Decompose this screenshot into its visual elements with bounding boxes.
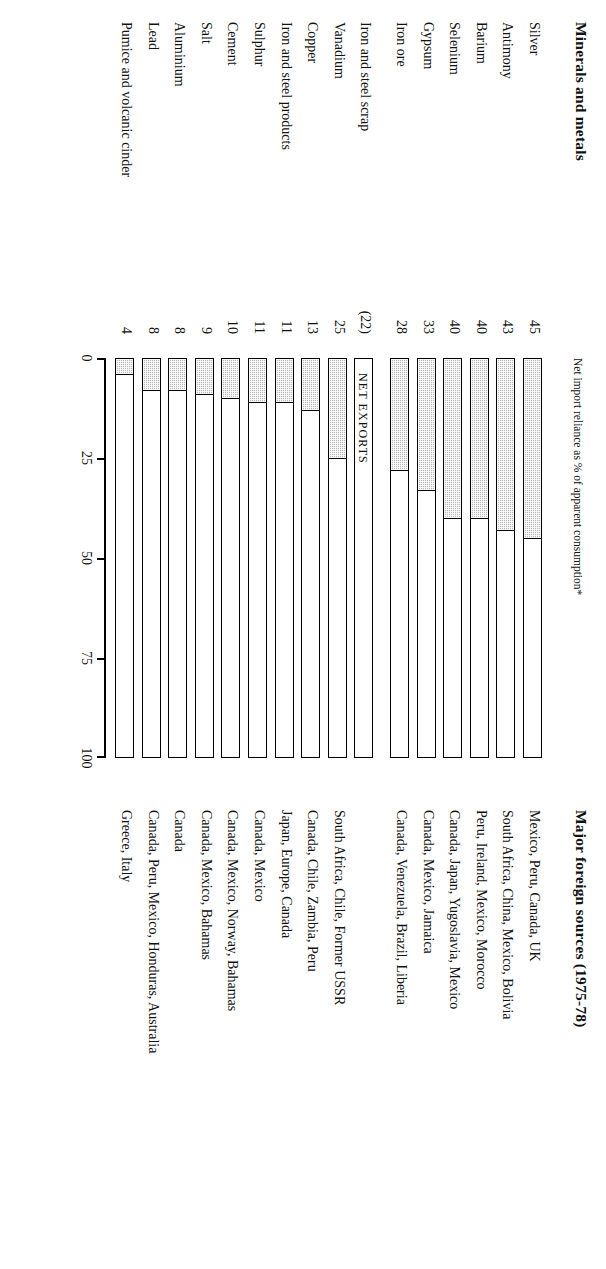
bar-fill xyxy=(249,359,266,403)
foreign-sources-label: Canada, Japan, Yugoslavia, Mexico xyxy=(446,810,462,1009)
foreign-sources-label: Japan, Europe, Canada xyxy=(278,810,294,938)
mineral-name-label: Barium xyxy=(473,22,489,64)
bar-fill xyxy=(391,359,408,471)
bar-fill xyxy=(196,359,213,395)
reliance-value-label: 10 xyxy=(224,300,240,334)
table-row: Iron and steel products11Japan, Europe, … xyxy=(271,0,296,1269)
x-axis: 0255075100 xyxy=(96,358,106,758)
bar-track xyxy=(115,358,134,758)
foreign-sources-label: Canada, Mexico, Norway, Bahamas xyxy=(224,810,240,1011)
chart-figure: Minerals and metals Major foreign source… xyxy=(0,0,606,1269)
bar-track xyxy=(275,358,294,758)
bar-track: NET EXPORTS xyxy=(354,358,373,758)
bar-track xyxy=(417,358,436,758)
axis-tick xyxy=(97,658,106,660)
bar-track xyxy=(168,358,187,758)
bar-track xyxy=(142,358,161,758)
rotated-page-wrapper: Minerals and metals Major foreign source… xyxy=(0,0,606,1269)
table-row: Salt9Canada, Mexico, Bahamas xyxy=(191,0,216,1269)
reliance-value-label: 43 xyxy=(499,300,515,334)
bar-track xyxy=(496,358,515,758)
bar-track xyxy=(195,358,214,758)
bar-fill xyxy=(444,359,461,519)
foreign-sources-label: Canada xyxy=(171,810,187,852)
mineral-name-label: Cement xyxy=(224,22,240,66)
reliance-value-label: (22) xyxy=(357,300,373,334)
net-exports-annotation: NET EXPORTS xyxy=(355,373,370,464)
reliance-value-label: 11 xyxy=(251,300,267,334)
table-row: Gypsum33Canada, Mexico, Jamaica xyxy=(413,0,438,1269)
reliance-value-label: 28 xyxy=(393,300,409,334)
bar-fill xyxy=(222,359,239,399)
axis-tick-label: 50 xyxy=(78,551,94,565)
foreign-sources-label: South Africa, Chile, Former USSR xyxy=(331,810,347,1005)
table-row: Silver45Mexico, Peru, Canada, UK xyxy=(519,0,544,1269)
table-row: Antimony43South Africa, China, Mexico, B… xyxy=(492,0,517,1269)
bar-fill xyxy=(471,359,488,519)
mineral-name-label: Aluminium xyxy=(171,22,187,87)
bar-fill xyxy=(418,359,435,491)
foreign-sources-label: Canada, Venezuela, Brazil, Liberia xyxy=(393,810,409,1005)
reliance-value-label: 8 xyxy=(171,300,187,334)
bar-track xyxy=(523,358,542,758)
axis-subtitle: Net import reliance as % of apparent con… xyxy=(572,358,584,595)
bar-track xyxy=(248,358,267,758)
mineral-name-label: Iron and steel scrap xyxy=(357,22,373,131)
foreign-sources-label: Canada, Mexico, Bahamas xyxy=(198,810,214,960)
axis-tick xyxy=(97,558,106,560)
bar-track xyxy=(328,358,347,758)
axis-tick-label: 25 xyxy=(78,451,94,465)
table-row: Selenium40Canada, Japan, Yugoslavia, Mex… xyxy=(439,0,464,1269)
bar-track xyxy=(390,358,409,758)
reliance-value-label: 45 xyxy=(526,300,542,334)
mineral-name-label: Selenium xyxy=(446,22,462,75)
reliance-value-label: 13 xyxy=(304,300,320,334)
bar-fill xyxy=(329,359,346,459)
mineral-name-label: Sulphur xyxy=(251,22,267,66)
axis-tick xyxy=(97,458,106,460)
bar-fill xyxy=(302,359,319,411)
bar-track xyxy=(470,358,489,758)
reliance-value-label: 11 xyxy=(278,300,294,334)
page-title: Minerals and metals xyxy=(572,22,590,161)
bar-fill xyxy=(276,359,293,403)
foreign-sources-label: Canada, Peru, Mexico, Honduras, Australi… xyxy=(145,810,161,1053)
foreign-sources-label: Greece, Italy xyxy=(118,810,134,882)
mineral-name-label: Gypsum xyxy=(420,22,436,69)
mineral-name-label: Iron and steel products xyxy=(278,22,294,150)
reliance-value-label: 4 xyxy=(118,300,134,334)
table-row: Pumice and volcanic cinder4Greece, Italy xyxy=(111,0,136,1269)
reliance-value-label: 40 xyxy=(446,300,462,334)
bar-fill xyxy=(524,359,541,539)
axis-tick xyxy=(97,756,106,758)
table-row: Lead8Canada, Peru, Mexico, Honduras, Aus… xyxy=(138,0,163,1269)
mineral-name-label: Salt xyxy=(198,22,214,44)
table-row: Barium40Peru, Ireland, Mexico, Morocco xyxy=(466,0,491,1269)
table-row: Copper13Canada, Chile, Zambia, Peru xyxy=(297,0,322,1269)
reliance-value-label: 8 xyxy=(145,300,161,334)
mineral-name-label: Iron ore xyxy=(393,22,409,67)
bar-fill xyxy=(143,359,160,391)
foreign-sources-label: Peru, Ireland, Mexico, Morocco xyxy=(473,810,489,990)
mineral-name-label: Lead xyxy=(145,22,161,50)
axis-tick-label: 0 xyxy=(78,355,94,362)
bar-track xyxy=(301,358,320,758)
foreign-sources-label: Canada, Chile, Zambia, Peru xyxy=(304,810,320,972)
axis-tick-label: 100 xyxy=(78,748,94,769)
bar-track xyxy=(221,358,240,758)
bar-fill xyxy=(169,359,186,391)
table-row: Iron and steel scrap(22)NET EXPORTS xyxy=(350,0,375,1269)
bar-fill xyxy=(116,359,133,375)
mineral-name-label: Silver xyxy=(526,22,542,55)
foreign-sources-label: South Africa, China, Mexico, Bolivia xyxy=(499,810,515,1020)
table-row: Aluminium8Canada xyxy=(164,0,189,1269)
bar-track xyxy=(443,358,462,758)
foreign-sources-label: Mexico, Peru, Canada, UK xyxy=(526,810,542,962)
reliance-value-label: 25 xyxy=(331,300,347,334)
table-row: Cement10Canada, Mexico, Norway, Bahamas xyxy=(217,0,242,1269)
axis-tick xyxy=(97,358,106,360)
reliance-value-label: 9 xyxy=(198,300,214,334)
table-row: Sulphur11Canada, Mexico xyxy=(244,0,269,1269)
foreign-sources-label: Canada, Mexico xyxy=(251,810,267,902)
reliance-value-label: 40 xyxy=(473,300,489,334)
